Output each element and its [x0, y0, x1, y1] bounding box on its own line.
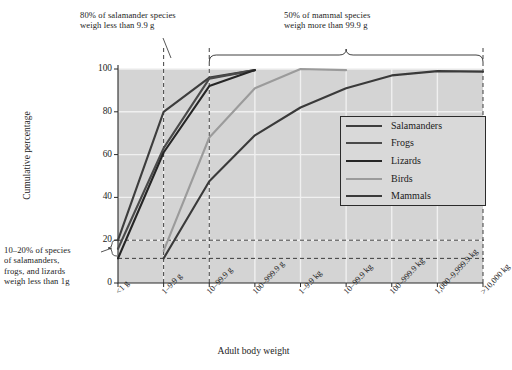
- annotation-small-line2: of salamanders,: [4, 255, 116, 265]
- annotation-salamander: 80% of salamander species weigh less tha…: [80, 10, 240, 31]
- x-axis-title: Adult body weight: [0, 345, 507, 356]
- annotation-small-line3: frogs, and lizards: [4, 266, 116, 276]
- legend-item-birds: Birds: [341, 170, 485, 188]
- legend-swatch-icon: [346, 195, 382, 197]
- annotation-mammal-line2: weigh more than 99.9 g: [284, 20, 454, 30]
- leader-line-salamander: [163, 38, 171, 58]
- legend-label: Frogs: [391, 138, 414, 148]
- y-tick-label: 80: [86, 106, 112, 116]
- legend-swatch-icon: [346, 125, 382, 127]
- legend-item-lizards: Lizards: [341, 152, 485, 170]
- bracket-mammal-annotation: [209, 49, 483, 62]
- legend-item-salamanders: Salamanders: [341, 117, 485, 135]
- legend-label: Lizards: [391, 156, 421, 166]
- y-tick-label: 40: [86, 191, 112, 201]
- y-axis-title: Cumulative percentage: [21, 86, 32, 226]
- legend-label: Salamanders: [391, 121, 442, 131]
- legend-swatch-icon: [346, 160, 382, 162]
- chart-legend: SalamandersFrogsLizardsBirdsMammals: [340, 116, 486, 206]
- y-tick-label: 60: [86, 149, 112, 159]
- legend-swatch-icon: [346, 178, 382, 180]
- y-tick-label: 20: [86, 234, 112, 244]
- annotation-mammal-line1: 50% of mammal species: [284, 10, 454, 20]
- legend-item-mammals: Mammals: [341, 187, 485, 205]
- annotation-small-line1: 10–20% of species: [4, 245, 116, 255]
- y-tick-label: 100: [86, 63, 112, 73]
- annotation-salamander-line2: weigh less than 9.9 g: [80, 20, 240, 30]
- legend-item-frogs: Frogs: [341, 135, 485, 153]
- legend-label: Birds: [391, 174, 413, 184]
- legend-label: Mammals: [391, 191, 431, 201]
- y-tick-label: 0: [86, 277, 112, 287]
- legend-swatch-icon: [346, 142, 382, 144]
- annotation-mammal: 50% of mammal species weigh more than 99…: [284, 10, 454, 31]
- annotation-salamander-line1: 80% of salamander species: [80, 10, 240, 20]
